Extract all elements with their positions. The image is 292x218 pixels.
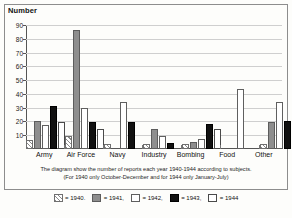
- bar-navy-1942: [120, 102, 127, 149]
- bar-bombing-1943: [206, 124, 213, 149]
- bar-army-1941: [34, 121, 41, 149]
- bar-air-force-1940: [65, 136, 72, 149]
- bar-bombing-1944: [214, 129, 221, 149]
- legend-item-1941: = 1941,: [92, 194, 124, 202]
- bar-army-1944: [58, 122, 65, 149]
- bar-air-force-1943: [89, 122, 96, 149]
- bar-food-1942: [237, 89, 244, 149]
- plot-area: 908070605040302010: [26, 25, 282, 149]
- x-tick-label-navy: Navy: [99, 151, 136, 163]
- chart-legend: = 1940.= 1941,= 1942,= 1943,= 1944: [4, 194, 288, 202]
- x-tick-label-air-force: Air Force: [63, 151, 100, 163]
- bar-industry-1943: [167, 143, 174, 149]
- legend-item-1943: = 1943,: [170, 194, 202, 202]
- bar-group: [26, 25, 65, 149]
- bar-groups: [26, 25, 282, 149]
- x-axis-tick-labels: ArmyAir ForceNavyIndustryBombingFoodOthe…: [26, 151, 282, 163]
- bar-industry-1942: [159, 136, 166, 149]
- bar-air-force-1942: [81, 108, 88, 149]
- y-tick-label: 20: [16, 118, 23, 125]
- y-tick-label: 40: [16, 90, 23, 97]
- caption-line-1: The diagram show the number of reports e…: [18, 166, 274, 174]
- legend-swatch-1944: [208, 194, 217, 202]
- bar-group: [260, 25, 292, 149]
- bar-industry-1941: [151, 129, 158, 149]
- bar-bombing-1941: [190, 142, 197, 150]
- chart-caption: The diagram show the number of reports e…: [18, 166, 274, 181]
- legend-swatch-1940: [54, 194, 63, 202]
- y-tick-label: 10: [16, 132, 23, 139]
- x-tick-label-industry: Industry: [136, 151, 173, 163]
- bar-other-1940: [260, 144, 267, 149]
- legend-item-1940: = 1940.: [54, 194, 86, 202]
- bar-bombing-1940: [182, 144, 189, 149]
- bar-bombing-1942: [198, 139, 205, 149]
- bar-group: [65, 25, 104, 149]
- bar-army-1943: [50, 106, 57, 149]
- bar-army-1940: [26, 140, 33, 149]
- legend-item-1944: = 1944: [208, 194, 238, 202]
- bar-navy-1940: [104, 144, 111, 149]
- bar-navy-1943: [128, 122, 135, 149]
- y-tick-label: 70: [16, 49, 23, 56]
- bar-group: [182, 25, 221, 149]
- legend-swatch-1942: [131, 194, 140, 202]
- bar-other-1943: [284, 121, 291, 149]
- bar-army-1942: [42, 125, 49, 149]
- legend-label-1943: = 1943,: [181, 195, 201, 201]
- legend-swatch-1941: [92, 194, 101, 202]
- bar-group: [221, 25, 260, 149]
- y-tick-label: 50: [16, 77, 23, 84]
- y-tick-label: 30: [16, 104, 23, 111]
- legend-label-1944: = 1944: [220, 195, 239, 201]
- chart-figure: Number 908070605040302010 ArmyAir ForceN…: [0, 0, 292, 218]
- legend-label-1942: = 1942,: [142, 195, 162, 201]
- bar-air-force-1944: [97, 129, 104, 149]
- y-tick-label: 80: [16, 35, 23, 42]
- bar-other-1942: [276, 102, 283, 149]
- y-tick-label: 90: [16, 22, 23, 29]
- caption-line-2: (For 1940 only October-December and for …: [18, 174, 274, 182]
- bar-industry-1940: [143, 144, 150, 149]
- legend-item-1942: = 1942,: [131, 194, 163, 202]
- legend-swatch-1943: [170, 194, 179, 202]
- x-tick-label-bombing: Bombing: [172, 151, 209, 163]
- bar-group: [143, 25, 182, 149]
- legend-label-1941: = 1941,: [104, 195, 124, 201]
- y-axis-label: Number: [8, 6, 37, 15]
- x-tick-label-other: Other: [245, 151, 282, 163]
- x-tick-label-food: Food: [209, 151, 246, 163]
- y-tick-label: 60: [16, 63, 23, 70]
- bar-air-force-1941: [73, 30, 80, 149]
- bar-other-1941: [268, 122, 275, 149]
- bar-group: [104, 25, 143, 149]
- legend-label-1940: = 1940.: [65, 195, 85, 201]
- x-tick-label-army: Army: [26, 151, 63, 163]
